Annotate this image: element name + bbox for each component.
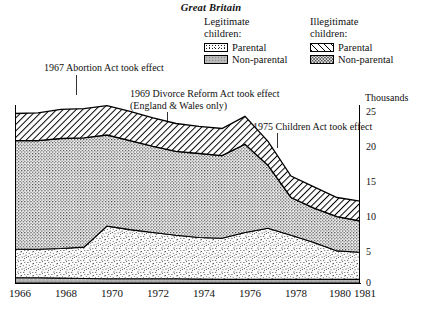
legend-item-illegitimate-parental: Parental	[310, 42, 393, 53]
y-tick-25: 25	[366, 106, 388, 117]
x-tick-1972: 1972	[138, 287, 178, 299]
x-tick-1974: 1974	[184, 287, 224, 299]
stacked-area-chart	[15, 105, 360, 283]
y-axis-right-line	[359, 105, 360, 284]
legend-item-legitimate-nonparental: Non-parental	[204, 54, 287, 65]
legend-label-illegitimate-parental: Parental	[338, 42, 372, 53]
x-tick-1981: 1981	[345, 287, 385, 299]
legend-item-legitimate-parental: Parental	[204, 42, 287, 53]
annotation-leader-1967	[76, 75, 77, 95]
annotation-1967-abortion-act: 1967 Abortion Act took effect	[44, 62, 164, 74]
legend-item-illegitimate-nonparental: Non-parental	[310, 54, 393, 65]
y-axis-left-line	[15, 105, 16, 284]
y-tick-10: 10	[366, 211, 388, 222]
legend-illegitimate: Illegitimate children: Parental Non-pare…	[310, 16, 393, 66]
legend-illegitimate-heading: Illegitimate children:	[310, 16, 393, 40]
legend-legitimate: Legitimate children: Parental Non-parent…	[204, 16, 287, 66]
x-tick-1978: 1978	[276, 287, 316, 299]
y-axis-unit-label: Thousands	[365, 92, 408, 103]
page-title: Great Britain	[0, 2, 422, 13]
y-tick-20: 20	[366, 141, 388, 152]
x-axis-line	[15, 283, 361, 284]
x-tick-1976: 1976	[230, 287, 270, 299]
swatch-illegitimate-parental	[310, 43, 334, 52]
legend-label-legitimate-parental: Parental	[232, 42, 266, 53]
y-tick-15: 15	[366, 176, 388, 187]
legend-label-legitimate-nonparental: Non-parental	[232, 54, 287, 65]
swatch-legitimate-nonparental	[204, 55, 228, 64]
legend-label-illegitimate-nonparental: Non-parental	[338, 54, 393, 65]
y-tick-5: 5	[366, 246, 388, 257]
x-tick-1966: 1966	[0, 287, 40, 299]
chart-plot-area	[15, 105, 360, 283]
swatch-legitimate-parental	[204, 43, 228, 52]
swatch-illegitimate-nonparental	[310, 55, 334, 64]
x-tick-1968: 1968	[46, 287, 86, 299]
legend-legitimate-heading: Legitimate children:	[204, 16, 287, 40]
x-tick-1970: 1970	[92, 287, 132, 299]
